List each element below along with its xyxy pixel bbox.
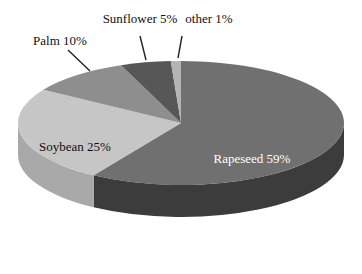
pie-chart: Rapeseed 59% Soybean 25% Palm 10% Sunflo… bbox=[0, 0, 362, 274]
leader-line-palm bbox=[68, 50, 90, 71]
label-other: other 1% bbox=[185, 11, 232, 26]
label-rapeseed: Rapeseed 59% bbox=[214, 151, 291, 166]
label-palm: Palm 10% bbox=[33, 33, 87, 48]
label-soybean: Soybean 25% bbox=[39, 139, 111, 154]
label-sunflower: Sunflower 5% bbox=[103, 11, 178, 26]
pie-tops bbox=[18, 61, 344, 185]
leader-line-other bbox=[178, 36, 182, 58]
leader-line-sunflower bbox=[140, 36, 146, 60]
